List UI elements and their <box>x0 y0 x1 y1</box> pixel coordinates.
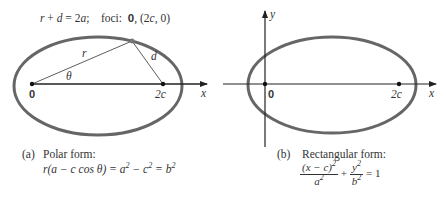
formula-a-sup3: 2 <box>171 161 175 170</box>
label-x-axis-b: x <box>429 87 434 100</box>
ellipse-b <box>248 37 416 133</box>
header-equals: = 2 <box>62 12 80 24</box>
label-origin-a: 0 <box>29 88 35 101</box>
label-x-axis-a: x <box>201 87 206 100</box>
focus-point-b <box>397 82 401 86</box>
ellipse-point <box>130 39 135 44</box>
label-focus-a: 2c <box>155 88 166 101</box>
panel-a-polar <box>14 37 207 135</box>
origin-point-a <box>30 82 34 86</box>
formula-a-part2: − c <box>130 163 149 175</box>
label-focus-b: 2c <box>391 88 402 101</box>
fraction-1: (x − c)2 a2 <box>300 161 338 188</box>
caption-b-formula: (x − c)2 a2 + y2 b2 = 1 <box>300 161 380 188</box>
frac1-den-sup: 2 <box>320 173 324 182</box>
formula-b-plus: + <box>338 167 350 179</box>
caption-a-title: Polar form: <box>43 148 96 161</box>
header-plus: + <box>44 12 56 24</box>
formula-b-equals: = 1 <box>363 167 380 179</box>
label-origin-b: 0 <box>268 88 274 101</box>
label-y-axis-b: y <box>270 8 275 21</box>
focus-point-a <box>161 82 165 86</box>
frac1-numerator: (x − c) <box>302 161 332 173</box>
header-foci-1: , (2 <box>134 12 149 24</box>
panel-b-rectangular <box>223 11 436 147</box>
formula-a-part3: = b <box>152 163 171 175</box>
label-r: r <box>82 47 86 60</box>
caption-b-title: Rectangular form: <box>302 148 386 161</box>
formula-a-part1: r(a − c cos θ) = a <box>43 163 126 175</box>
label-theta: θ <box>66 70 72 83</box>
panel-a-header: r + d = 2a; foci: 0, (2c, 0) <box>40 12 170 25</box>
fraction-2: y2 b2 <box>350 161 364 188</box>
header-foci-label: ; foci: <box>86 12 128 24</box>
caption-b-tag: (b) <box>277 148 290 161</box>
caption-a-tag: (a) <box>22 148 35 161</box>
header-foci-2: , 0) <box>155 12 170 24</box>
frac1-num-sup: 2 <box>332 159 336 168</box>
label-d: d <box>151 50 157 63</box>
frac2-den-sup: 2 <box>357 173 361 182</box>
origin-point-b <box>263 82 267 86</box>
caption-a-formula: r(a − c cos θ) = a2 − c2 = b2 <box>43 163 175 176</box>
frac2-num-sup: 2 <box>357 159 361 168</box>
